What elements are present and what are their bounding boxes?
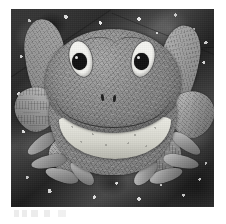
- image-medium: Black and white photograph of a fabric q…: [0, 0, 1, 1]
- frog-mouth-line: [56, 67, 170, 128]
- frog-pupil-right: [134, 53, 149, 70]
- background-label: Star-speckled dark fabric: [0, 0, 1, 1]
- caption-artifact: [14, 210, 212, 217]
- image-alt-text: Grayscale photo of a pieced and applique…: [0, 0, 1, 1]
- figure-page: Grayscale photo of a pieced and applique…: [0, 0, 226, 224]
- photograph: [11, 9, 214, 207]
- frog-head: [45, 29, 181, 133]
- subject-pose: front-facing, arms raised, legs splayed: [0, 0, 1, 1]
- frog-pupil-left: [72, 53, 87, 70]
- frog-eye-glint-right: [137, 56, 140, 59]
- image-title: Appliqued frog quilt block: [0, 0, 1, 1]
- frog-eye-glint-left: [75, 56, 78, 59]
